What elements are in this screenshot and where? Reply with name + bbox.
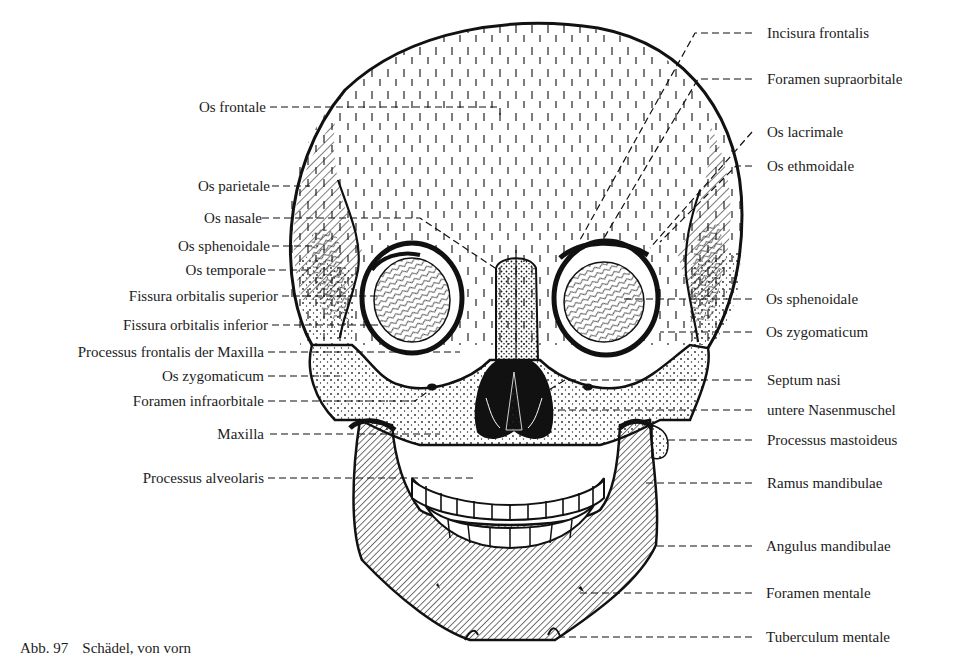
label-untere-nasenmuschel: untere Nasenmuschel bbox=[767, 401, 896, 419]
orbit-left bbox=[362, 243, 462, 353]
figure-caption: Abb. 97Schädel, von vorn bbox=[20, 640, 205, 657]
label-foramen-supraorbitale: Foramen supraorbitale bbox=[767, 70, 902, 88]
orbit-right bbox=[554, 241, 658, 355]
label-septum-nasi: Septum nasi bbox=[767, 371, 841, 389]
label-os-sphenoidale-right: Os sphenoidale bbox=[766, 290, 858, 308]
caption-number: Abb. 97 bbox=[20, 640, 68, 656]
label-processus-frontalis-maxilla: Processus frontalis der Maxilla bbox=[78, 343, 264, 361]
label-fissura-orbitalis-superior: Fissura orbitalis superior bbox=[129, 287, 278, 305]
label-processus-mastoideus: Processus mastoideus bbox=[767, 431, 897, 449]
label-os-nasale: Os nasale bbox=[204, 209, 262, 227]
caption-text: Schädel, von vorn bbox=[82, 640, 191, 656]
nasal-aperture bbox=[476, 360, 552, 438]
label-os-zygomaticum-right: Os zygomaticum bbox=[766, 323, 868, 341]
label-os-lacrimale: Os lacrimale bbox=[767, 123, 843, 141]
label-foramen-infraorbitale: Foramen infraorbitale bbox=[133, 392, 264, 410]
label-angulus-mandibulae: Angulus mandibulae bbox=[766, 537, 891, 555]
label-os-temporale: Os temporale bbox=[186, 261, 266, 279]
label-incisura-frontalis: Incisura frontalis bbox=[767, 24, 869, 42]
label-foramen-mentale: Foramen mentale bbox=[766, 584, 871, 602]
label-os-sphenoidale: Os sphenoidale bbox=[178, 237, 270, 255]
label-os-ethmoidale: Os ethmoidale bbox=[767, 157, 854, 175]
label-tuberculum-mentale: Tuberculum mentale bbox=[766, 628, 890, 646]
label-os-parietale: Os parietale bbox=[198, 177, 270, 195]
nasal-bones bbox=[496, 250, 538, 360]
label-processus-alveolaris: Processus alveolaris bbox=[143, 469, 264, 487]
label-maxilla: Maxilla bbox=[217, 425, 264, 443]
label-ramus-mandibulae: Ramus mandibulae bbox=[767, 474, 882, 492]
label-os-frontale: Os frontale bbox=[199, 98, 266, 116]
label-fissura-orbitalis-inferior: Fissura orbitalis inferior bbox=[123, 316, 268, 334]
label-os-zygomaticum-left: Os zygomaticum bbox=[162, 367, 264, 385]
